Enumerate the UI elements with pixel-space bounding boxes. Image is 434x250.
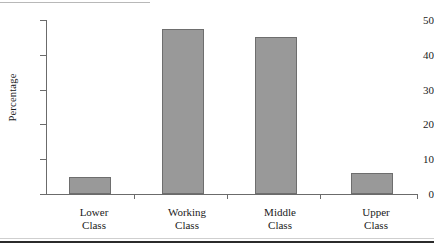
x-tick-2: [227, 194, 228, 199]
x-tick-3: [320, 194, 321, 199]
y-axis-title-container: Percentage: [0, 0, 20, 214]
top-divider-rule: [0, 2, 150, 3]
y-axis-title: Percentage: [7, 48, 18, 148]
x-tick-4: [417, 194, 418, 199]
bar-lower-class[interactable]: [69, 177, 111, 194]
bar-working-class[interactable]: [162, 29, 204, 194]
x-category-middle-class: Middle Class: [225, 206, 335, 232]
bar-middle-class[interactable]: [255, 37, 297, 194]
bottom-divider-soft: [0, 238, 434, 239]
bar-chart-figure: Percentage 50 40 30 20 10 0 Lower Class …: [0, 0, 434, 250]
x-category-middle-class-line2: Class: [225, 219, 335, 232]
x-category-upper-class-line1: Upper: [321, 206, 431, 219]
bottom-divider-rule: [0, 241, 434, 243]
x-axis-line: [42, 194, 418, 195]
plot-area: [46, 20, 418, 194]
bar-upper-class[interactable]: [351, 173, 393, 194]
x-category-upper-class-line2: Class: [321, 219, 431, 232]
x-tick-1: [134, 194, 135, 199]
x-category-upper-class: Upper Class: [321, 206, 431, 232]
x-category-middle-class-line1: Middle: [225, 206, 335, 219]
